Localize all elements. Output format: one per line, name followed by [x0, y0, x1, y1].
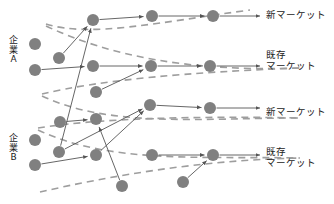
node-circle — [90, 149, 102, 161]
node-circle — [53, 52, 65, 64]
diagram-canvas: 企 業 A企 業 B 新マーケット既存 マーケット新マーケット既存 マーケット — [0, 0, 334, 204]
flow-arrow — [156, 105, 201, 107]
label-existing-market-bottom: 既存 マーケット — [266, 146, 316, 168]
node-circle — [29, 134, 41, 146]
flow-arrow — [66, 120, 87, 122]
label-new-market-top: 新マーケット — [266, 9, 326, 20]
node-circle — [207, 10, 219, 22]
node-circle — [146, 10, 158, 22]
dashed-curve — [42, 68, 300, 94]
label-new-market-bottom: 新マーケット — [266, 106, 326, 117]
label-existing-market-top: 既存 マーケット — [266, 49, 316, 71]
node-circle — [54, 116, 66, 128]
node-circle — [29, 159, 41, 171]
label-company-b: 企 業 B — [8, 134, 19, 163]
node-circle — [29, 38, 41, 50]
node-circle — [144, 99, 156, 111]
node-circle — [204, 102, 216, 114]
dashed-curve — [38, 130, 300, 158]
flow-arrow — [61, 28, 91, 145]
node-circle — [177, 176, 189, 188]
flow-arrow — [99, 17, 143, 20]
node-circle — [87, 14, 99, 26]
node-circle — [146, 149, 158, 161]
flow-arrow — [65, 109, 143, 149]
flow-arrow — [101, 111, 144, 151]
node-circle — [116, 180, 128, 192]
node-circle — [204, 60, 216, 72]
node-circle — [53, 146, 65, 158]
flow-arrow — [99, 127, 120, 180]
label-company-a: 企 業 A — [8, 36, 19, 65]
node-circle — [87, 60, 99, 72]
node-circle — [207, 149, 219, 161]
node-circle — [29, 64, 41, 76]
flow-arrow — [63, 26, 87, 53]
dashed-curve — [42, 96, 300, 119]
node-circles — [29, 10, 219, 192]
flow-arrow — [41, 67, 84, 70]
flow-arrow — [41, 156, 87, 164]
node-circle — [145, 60, 157, 72]
diagram-svg — [0, 0, 334, 204]
dashed-curve — [40, 158, 300, 192]
dashed-curve — [46, 26, 300, 69]
node-circle — [90, 113, 102, 125]
flow-arrow — [188, 161, 207, 178]
node-circle — [90, 86, 102, 98]
